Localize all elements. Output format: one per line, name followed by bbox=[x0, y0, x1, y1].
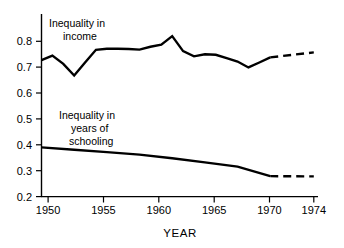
line-chart: 0.8 0.7 0.6 0.5 0.4 0.3 0.2 1950 1955 19… bbox=[0, 0, 344, 248]
schooling-annotation-line2: years of bbox=[71, 122, 108, 134]
income-annotation-line2: income bbox=[63, 30, 97, 42]
y-tick-label-3: 0.5 bbox=[17, 113, 32, 125]
x-tick-label-4: 1970 bbox=[257, 204, 281, 216]
y-tick-label-2: 0.6 bbox=[17, 87, 32, 99]
x-tick-label-5: 1974 bbox=[302, 204, 326, 216]
y-tick-label-1: 0.7 bbox=[17, 61, 32, 73]
schooling-annotation-line3: schooling bbox=[69, 135, 114, 147]
y-tick-label-0: 0.8 bbox=[17, 35, 32, 47]
x-tick-label-0: 1950 bbox=[36, 204, 60, 216]
income-annotation-line1: Inequality in bbox=[49, 17, 105, 29]
x-axis-title: YEAR bbox=[163, 227, 197, 239]
x-tick-label-1: 1955 bbox=[91, 204, 115, 216]
chart-figure: 0.8 0.7 0.6 0.5 0.4 0.3 0.2 1950 1955 19… bbox=[0, 0, 344, 248]
x-tick-label-2: 1960 bbox=[147, 204, 171, 216]
x-tick-label-3: 1965 bbox=[202, 204, 226, 216]
y-tick-label-6: 0.2 bbox=[17, 191, 32, 203]
schooling-annotation-line1: Inequality in bbox=[59, 109, 115, 121]
y-tick-label-5: 0.3 bbox=[17, 165, 32, 177]
y-tick-label-4: 0.4 bbox=[17, 139, 32, 151]
